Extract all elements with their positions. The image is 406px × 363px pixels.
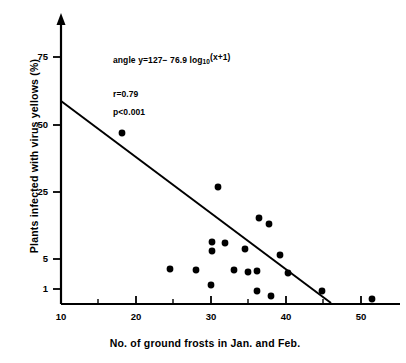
- data-point: [254, 268, 261, 275]
- y-axis-ticks: [53, 57, 61, 289]
- data-point: [256, 215, 263, 222]
- y-axis-arrowhead: [57, 13, 66, 25]
- data-point: [254, 288, 261, 295]
- x-tick-label-20: 20: [121, 311, 151, 322]
- pvalue-annotation: p<0.001: [113, 107, 145, 117]
- scatter-plot-figure: Plants infected with virus yellows (%) N…: [0, 0, 406, 363]
- data-point: [268, 293, 275, 300]
- equation-suffix: (x+1): [210, 52, 231, 62]
- equation-prefix: angle y=127− 76.9 log: [113, 55, 203, 65]
- data-point: [231, 267, 238, 274]
- data-point: [208, 282, 215, 289]
- y-tick-label-1: 1: [22, 283, 48, 294]
- data-point: [215, 184, 222, 191]
- data-point: [277, 252, 284, 259]
- data-point: [369, 296, 376, 303]
- data-point: [119, 130, 126, 137]
- x-tick-label-40: 40: [271, 311, 301, 322]
- y-tick-label-75: 75: [22, 51, 48, 62]
- x-axis-label: No. of ground frosts in Jan. and Feb.: [60, 337, 350, 349]
- y-axis-label: Plants infected with virus yellows (%): [28, 26, 40, 286]
- y-tick-label-25: 25: [22, 186, 48, 197]
- x-tick-label-50: 50: [346, 311, 376, 322]
- y-tick-label-50: 50: [22, 119, 48, 130]
- data-point: [222, 240, 229, 247]
- data-points: [119, 130, 376, 303]
- x-axis-major-ticks: [61, 296, 361, 304]
- y-tick-label-5: 5: [22, 253, 48, 264]
- correlation-annotation: r=0.79: [113, 89, 138, 99]
- data-point: [245, 269, 252, 276]
- data-point: [266, 221, 273, 228]
- data-point: [209, 248, 216, 255]
- data-point: [167, 266, 174, 273]
- data-point: [242, 246, 249, 253]
- data-point: [193, 267, 200, 274]
- x-tick-label-10: 10: [46, 311, 76, 322]
- x-tick-label-30: 30: [196, 311, 226, 322]
- data-point: [319, 288, 326, 295]
- equation-log-base: 10: [203, 58, 210, 65]
- data-point: [209, 239, 216, 246]
- regression-equation-annotation: angle y=127− 76.9 log10(x+1): [113, 52, 231, 65]
- data-point: [285, 270, 292, 277]
